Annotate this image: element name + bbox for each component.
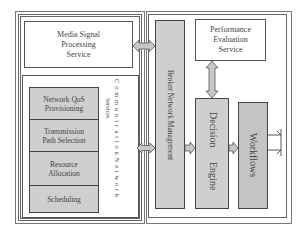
right-arrow-icon (229, 142, 238, 154)
double-arrow-icon (137, 143, 155, 153)
vertical-double-arrow-icon (206, 61, 218, 98)
output-arrow-icon (268, 129, 281, 156)
arrows-layer (0, 0, 304, 236)
right-arrow-icon (185, 142, 195, 154)
double-arrow-icon (133, 40, 155, 52)
